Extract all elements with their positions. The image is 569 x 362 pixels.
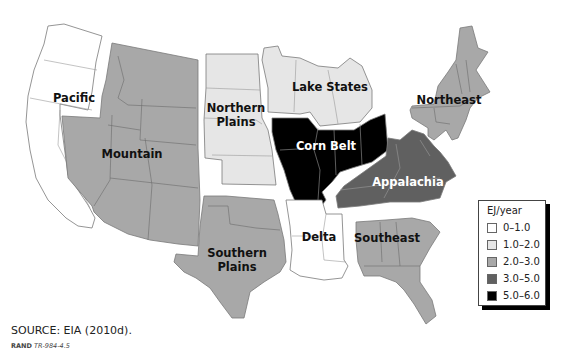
legend-label: 0–1.0 [503,222,530,233]
label-southern-plains-line2: Plains [217,260,256,274]
label-pacific: Pacific [53,91,95,105]
legend-label: 1.0–2.0 [503,239,540,250]
legend-label: 5.0–6.0 [503,290,540,301]
label-southeast: Southeast [354,231,420,245]
legend-swatch [487,274,497,284]
legend-swatch [487,240,497,250]
legend-label: 3.0–5.0 [503,273,540,284]
label-northern-plains-line2: Plains [216,115,255,129]
report-id: TR-984-4.5 [34,342,70,350]
legend-item: 2.0–3.0 [487,253,545,270]
label-northeast: Northeast [417,93,482,107]
legend-item: 0–1.0 [487,219,545,236]
legend-swatch [487,257,497,267]
legend-swatch [487,291,497,301]
source-note: SOURCE: EIA (2010d). [11,324,132,337]
label-southern-plains-line1: Southern [207,246,267,260]
label-corn-belt: Corn Belt [296,139,357,153]
legend-item: 3.0–5.0 [487,270,545,287]
label-delta: Delta [302,230,337,244]
legend-item: 5.0–6.0 [487,287,545,304]
rand-id: RAND TR-984-4.5 [11,342,70,350]
legend: EJ/year 0–1.0 1.0–2.0 2.0–3.0 3.0–5.0 5.… [478,200,546,306]
us-regions-map: Pacific Mountain Northern Plains Lake St… [0,0,569,362]
label-mountain: Mountain [101,147,162,161]
legend-title: EJ/year [487,205,545,216]
label-lake-states: Lake States [292,80,368,94]
rand-org: RAND [11,342,32,350]
legend-swatch [487,223,497,233]
legend-label: 2.0–3.0 [503,256,540,267]
region-northeast [410,26,490,140]
label-appalachia: Appalachia [372,175,444,189]
label-northern-plains-line1: Northern [207,101,266,115]
legend-item: 1.0–2.0 [487,236,545,253]
